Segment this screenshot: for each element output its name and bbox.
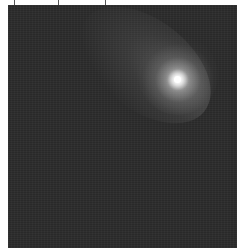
comet-image (8, 5, 237, 248)
comet-coma (138, 35, 218, 115)
comet-nucleus (174, 76, 181, 83)
image-frame (0, 0, 240, 252)
